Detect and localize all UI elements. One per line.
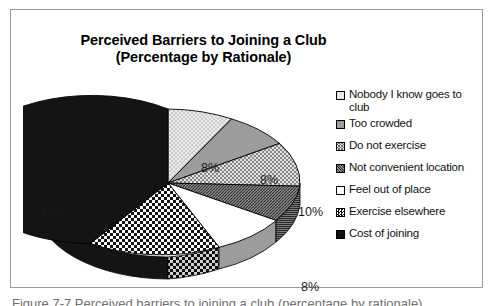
legend-label-line1: Nobody I know goes to (349, 88, 462, 100)
legend-swatch-icon-exercise-elsewhere (336, 208, 345, 217)
chart-title: Perceived Barriers to Joining a Club (Pe… (31, 32, 376, 66)
pie-svg (23, 80, 333, 295)
data-label-not-convenient-location: 8% (301, 280, 319, 294)
legend-label-too-crowded: Too crowded (349, 117, 412, 130)
legend-swatch-icon-feel-out-of-place (336, 186, 345, 195)
legend-item-exercise-elsewhere: Exercise elsewhere (336, 205, 491, 218)
legend-swatch-icon-nobody-i-know-goes-to-club (336, 91, 345, 100)
legend-item-nobody-i-know-goes-to-club: Nobody I know goes to club (336, 88, 491, 114)
legend-swatch-icon-cost-of-joining (336, 230, 345, 239)
data-label-nobody-i-know-goes-to-club: 8% (201, 161, 219, 175)
pie-chart-figure: Perceived Barriers to Joining a Club (Pe… (0, 0, 493, 306)
data-label-do-not-exercise: 10% (298, 205, 323, 219)
legend-swatch-icon-too-crowded (336, 120, 345, 129)
pie-plot-area: 8% 8% 10% 8% 12% 14% 40% (23, 80, 333, 295)
legend-label-feel-out-of-place: Feel out of place (349, 183, 431, 196)
chart-border-frame: Perceived Barriers to Joining a Club (Pe… (10, 9, 483, 288)
legend-item-not-convenient-location: Not convenient location (336, 161, 491, 174)
legend-label-line2: club (349, 101, 462, 114)
figure-caption: Figure 7-7 Perceived barriers to joining… (12, 296, 422, 306)
legend-item-do-not-exercise: Do not exercise (336, 139, 491, 152)
pie-top-face (23, 95, 300, 254)
legend-item-cost-of-joining: Cost of joining (336, 227, 491, 240)
legend-label-not-convenient-location: Not convenient location (349, 161, 464, 174)
legend-item-feel-out-of-place: Feel out of place (336, 183, 491, 196)
legend-item-too-crowded: Too crowded (336, 117, 491, 130)
chart-subtitle: (Percentage by Rationale) (31, 49, 376, 66)
data-label-cost-of-joining: 40% (41, 206, 66, 220)
data-label-too-crowded: 8% (260, 173, 278, 187)
legend-label-do-not-exercise: Do not exercise (349, 139, 426, 152)
legend-label-cost-of-joining: Cost of joining (349, 227, 419, 240)
legend-swatch-icon-not-convenient-location (336, 164, 345, 173)
legend-swatch-icon-do-not-exercise (336, 142, 345, 151)
chart-title-line1: Perceived Barriers to Joining a Club (80, 32, 326, 48)
chart-legend: Nobody I know goes to club Too crowded D… (336, 88, 491, 249)
legend-label-nobody-i-know-goes-to-club: Nobody I know goes to club (349, 88, 462, 114)
legend-label-exercise-elsewhere: Exercise elsewhere (349, 205, 445, 218)
